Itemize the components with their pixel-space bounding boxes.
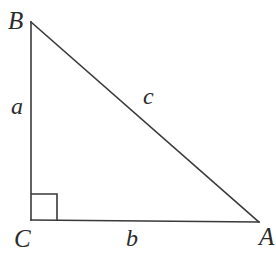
side-label-c: c	[143, 84, 154, 108]
side-label-a: a	[11, 94, 23, 118]
side-c-line	[31, 22, 259, 222]
right-triangle-figure: B C A a b c	[0, 0, 276, 272]
side-b-line	[31, 220, 259, 222]
vertex-label-b: B	[8, 8, 23, 33]
vertex-label-a: A	[259, 224, 274, 249]
right-angle-marker	[31, 194, 57, 220]
side-label-b: b	[126, 226, 138, 250]
triangle-drawing	[0, 0, 276, 272]
vertex-label-c: C	[14, 226, 31, 251]
